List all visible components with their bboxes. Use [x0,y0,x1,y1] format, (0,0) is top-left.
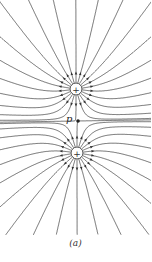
field-line [0,95,73,116]
field-line [79,159,98,234]
arrow-icon [79,103,81,106]
field-line [81,127,152,148]
field-line [83,151,151,165]
point-p-dot [76,119,80,123]
field-line [0,0,71,85]
field-line [80,0,126,84]
charge-sign: + [73,149,81,159]
field-line [0,92,70,99]
field-line [81,0,151,85]
arrow-icon [60,150,63,153]
arrow-icon [60,94,63,96]
arrow-icon [87,142,90,145]
field-line [83,143,151,150]
point-p-label: p [66,113,72,124]
arrow-icon [90,90,93,93]
arrow-icon [80,167,83,170]
figure-caption: (a) [0,238,151,248]
arrow-icon [61,146,64,148]
arrow-icon [76,168,79,171]
charge-sign: + [72,85,80,95]
field-line [33,159,73,235]
field-line [80,95,152,115]
field-line [0,143,71,151]
field-line [0,127,74,147]
arrow-icon [75,71,78,74]
arrow-icon [59,90,62,93]
arrow-icon [76,135,79,138]
field-line [82,92,151,99]
field-line-diagram: + + [0,0,151,262]
arrow-icon [72,136,74,139]
arrow-icon [71,72,74,75]
field-line [0,77,70,91]
arrow-icon [71,103,73,106]
field-lines [0,0,151,235]
arrow-icon [80,136,82,139]
charge-bottom: + [71,147,83,159]
arrow-icon [89,94,92,96]
field-line [27,0,73,84]
arrow-icon [75,104,78,107]
arrow-icon [90,146,93,148]
arrow-icon [62,97,65,100]
charge-top: + [70,83,82,95]
arrow-icon [91,150,94,153]
field-line [0,58,70,89]
field-line [81,159,122,235]
field-line [83,154,151,183]
